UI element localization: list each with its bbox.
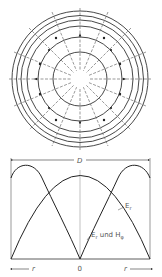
label-er-und-hphi: Er und Hφ <box>91 231 125 241</box>
arrow-icon <box>119 93 121 95</box>
axis-label-zero: 0 <box>78 265 82 273</box>
curve-er <box>11 176 150 260</box>
leader-er <box>118 207 124 210</box>
arrow-icon <box>55 119 57 121</box>
axis-label-r-right: r <box>124 265 128 273</box>
arrow-icon <box>55 37 57 39</box>
label-er: Er <box>125 202 132 211</box>
arrow-icon <box>119 63 121 65</box>
arrow-icon <box>79 33 82 37</box>
curve-er-hphi <box>11 165 150 259</box>
arrow-icon <box>110 49 112 51</box>
arrow-icon <box>48 107 50 109</box>
arrow-icon <box>79 122 82 126</box>
dimension-label-d: D <box>77 157 83 165</box>
arrow-icon <box>103 37 105 39</box>
diagram-canvas: D Er Er und Hφ r 0 r <box>0 0 162 277</box>
arrow-icon <box>123 78 127 81</box>
arrow-icon <box>39 63 41 65</box>
center-hub <box>71 70 89 88</box>
arrow-icon <box>39 93 41 95</box>
arrow-icon <box>103 119 105 121</box>
arrow-icon <box>34 78 38 81</box>
arrow-icon <box>110 107 112 109</box>
axis-label-r-left: r <box>32 265 36 273</box>
arrow-icon <box>48 49 50 51</box>
